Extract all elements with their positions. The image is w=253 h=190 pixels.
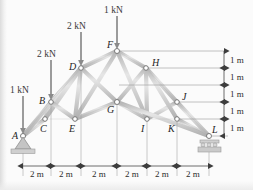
joint-B bbox=[49, 100, 54, 105]
joint-F bbox=[115, 49, 120, 54]
node-label-D: D bbox=[68, 61, 77, 72]
hdim-label-5: 2 m bbox=[155, 169, 169, 179]
truss-diagram-svg: A B C D E F G H I J K L 1 kN 2 kN 2 kN 1… bbox=[0, 0, 253, 190]
hdim-label-4: 2 m bbox=[125, 169, 139, 179]
hdim-label-1: 2 m bbox=[30, 169, 44, 179]
bottom-page-crop-shadow bbox=[0, 181, 253, 190]
node-label-C: C bbox=[40, 123, 47, 134]
joint-H bbox=[144, 66, 149, 71]
node-label-J: J bbox=[182, 91, 187, 102]
horizontal-dimension-labels: 2 m 2 m 2 m 2 m 2 m 2 m bbox=[30, 169, 200, 179]
hdim-label-3: 2 m bbox=[92, 169, 106, 179]
node-label-G: G bbox=[107, 104, 114, 115]
member-B-E bbox=[51, 102, 75, 119]
vertical-dimension-labels: 1 m 1 m 1 m 1 m 1 m bbox=[230, 55, 244, 133]
joint-D bbox=[79, 66, 84, 71]
hdim-label-6: 2 m bbox=[186, 169, 200, 179]
vdim-label-3: 1 m bbox=[230, 89, 244, 99]
load-label-A: 1 kN bbox=[10, 85, 29, 95]
joint-J bbox=[175, 100, 180, 105]
joint-E bbox=[73, 117, 78, 122]
load-label-F: 1 kN bbox=[104, 5, 123, 15]
node-label-I: I bbox=[140, 123, 145, 134]
vdim-label-4: 1 m bbox=[230, 106, 244, 116]
joint-L bbox=[207, 134, 212, 139]
joint-G bbox=[115, 100, 120, 105]
load-label-B: 2 kN bbox=[37, 49, 56, 59]
vdim-label-1: 1 m bbox=[230, 55, 244, 65]
hdim-label-2: 2 m bbox=[59, 169, 73, 179]
vdim-label-5: 1 m bbox=[230, 123, 244, 133]
node-label-F: F bbox=[106, 39, 114, 50]
joint-I bbox=[145, 117, 150, 122]
node-label-L: L bbox=[211, 124, 218, 135]
support-roller-L bbox=[198, 140, 221, 152]
node-label-K: K bbox=[167, 123, 176, 134]
node-label-E: E bbox=[68, 123, 75, 134]
figure-canvas: A B C D E F G H I J K L 1 kN 2 kN 2 kN 1… bbox=[0, 0, 253, 190]
node-label-A: A bbox=[11, 130, 19, 141]
vdim-label-2: 1 m bbox=[230, 72, 244, 82]
node-label-B: B bbox=[39, 95, 45, 106]
node-label-H: H bbox=[151, 57, 160, 68]
load-label-D: 2 kN bbox=[67, 21, 86, 31]
joint-C bbox=[43, 117, 48, 122]
joint-K bbox=[175, 117, 180, 122]
